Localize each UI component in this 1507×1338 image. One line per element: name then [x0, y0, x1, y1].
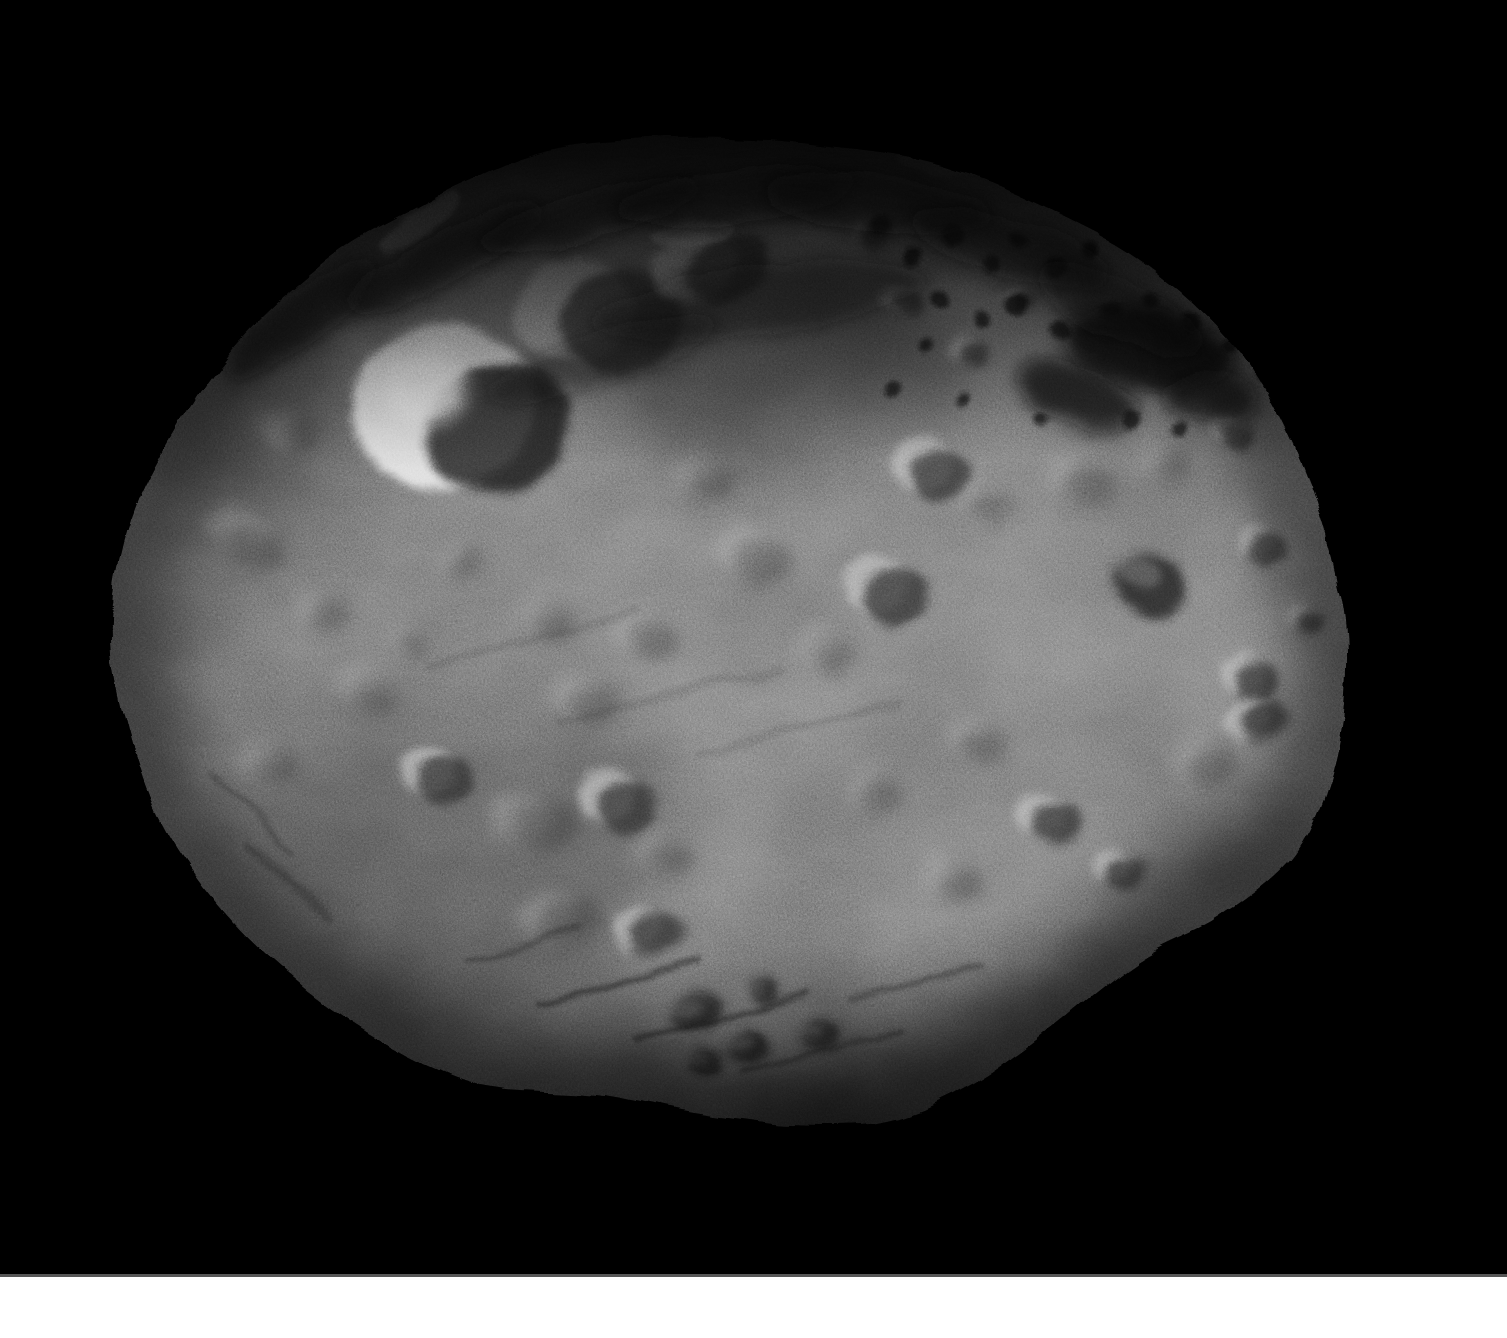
photo-frame	[0, 0, 1507, 1338]
bottom-white-strip	[0, 1277, 1507, 1338]
vesta-asteroid-photograph	[0, 0, 1507, 1338]
